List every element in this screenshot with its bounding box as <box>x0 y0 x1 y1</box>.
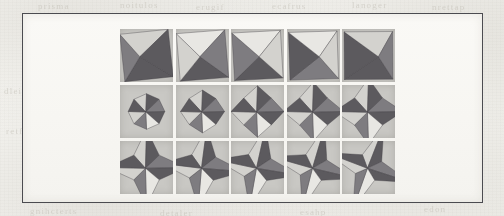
shape-cell-r1c2 <box>176 29 229 82</box>
four-point-star-5-glyph <box>342 141 395 194</box>
bleed-through-text: lanoger <box>352 0 387 10</box>
shape-cell-r1c1 <box>120 29 173 82</box>
square-faceted-solid-5-glyph <box>342 29 395 82</box>
shape-cell-r2c3 <box>231 85 284 138</box>
shape-cell-r2c4 <box>287 85 340 138</box>
figure-frame <box>22 13 483 203</box>
square-faceted-solid-4-glyph <box>287 29 340 82</box>
square-faceted-solid-3-glyph <box>231 29 284 82</box>
shape-cell-r3c2 <box>176 141 229 194</box>
shape-cell-r1c3 <box>231 29 284 82</box>
octagonal-solid-1-glyph <box>120 85 173 138</box>
shape-cell-r3c5 <box>342 141 395 194</box>
bleed-through-text: ecafrus <box>272 1 306 11</box>
four-point-star-3-glyph <box>231 141 284 194</box>
shape-cell-r3c3 <box>231 141 284 194</box>
four-point-star-4-glyph <box>287 141 340 194</box>
octagonal-solid-2-glyph <box>176 85 229 138</box>
shape-cell-r1c4 <box>287 29 340 82</box>
bleed-through-text: prisma <box>38 1 70 11</box>
bleed-through-text: nrettap <box>432 2 465 12</box>
shape-cell-r2c2 <box>176 85 229 138</box>
octagonal-solid-5-glyph <box>342 85 395 138</box>
square-faceted-solid-1-glyph <box>120 29 173 82</box>
shape-cell-r2c1 <box>120 85 173 138</box>
shape-cell-r2c5 <box>342 85 395 138</box>
octagonal-solid-3-glyph <box>231 85 284 138</box>
shape-cell-r3c4 <box>287 141 340 194</box>
bleed-through-text: noitulos <box>120 0 159 10</box>
four-point-star-2-glyph <box>176 141 229 194</box>
four-point-star-1-glyph <box>120 141 173 194</box>
square-faceted-solid-2-glyph <box>176 29 229 82</box>
bleed-through-text: gnihcterts <box>30 206 78 216</box>
octagonal-solid-4-glyph <box>287 85 340 138</box>
shape-grid <box>120 29 395 194</box>
shape-cell-r1c5 <box>342 29 395 82</box>
shape-cell-r3c1 <box>120 141 173 194</box>
bleed-through-text: edon <box>424 204 446 214</box>
bleed-through-text: detaler <box>160 208 193 216</box>
bleed-through-text: esahp <box>300 207 327 216</box>
bleed-through-text: erugif <box>196 2 225 12</box>
